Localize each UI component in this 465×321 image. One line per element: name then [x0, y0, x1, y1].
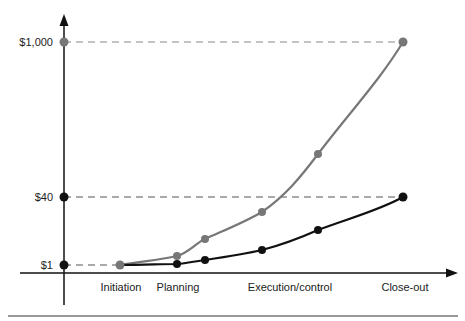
y-axis-arrow-icon	[60, 14, 69, 26]
black-series-line	[120, 197, 403, 265]
start-point	[116, 261, 125, 270]
x-label-planning: Planning	[157, 281, 200, 293]
x-label-execution-control: Execution/control	[248, 281, 332, 293]
y-label-40: $40	[35, 191, 53, 203]
y-label-1: $1	[41, 259, 53, 271]
x-label-close-out: Close-out	[381, 281, 428, 293]
gray-series-line	[120, 42, 403, 265]
y-label-1000: $1,000	[19, 36, 53, 48]
black-series-points	[60, 193, 408, 270]
x-axis-arrow-icon	[446, 269, 458, 278]
x-label-initiation: Initiation	[101, 281, 142, 293]
chart: $1,000 $40 $1 Initiation Planning Execut…	[0, 0, 465, 321]
